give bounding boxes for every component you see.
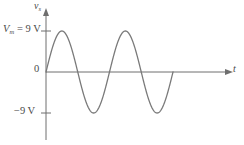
- x-axis-arrowhead: [225, 69, 233, 75]
- origin-label: 0: [34, 64, 39, 75]
- peak-voltage-label: Vm = 9 V: [3, 24, 41, 35]
- peak-voltage-value: = 9 V: [14, 23, 40, 34]
- y-axis-arrowhead: [43, 8, 49, 16]
- y-axis-label: vs: [34, 1, 41, 12]
- sine-waveform-figure: Vm = 9 V −9 V 0 vs t: [0, 0, 244, 145]
- negative-peak-label: −9 V: [14, 106, 35, 117]
- y-axis-subscript: s: [38, 5, 41, 12]
- x-axis-label: t: [233, 64, 236, 74]
